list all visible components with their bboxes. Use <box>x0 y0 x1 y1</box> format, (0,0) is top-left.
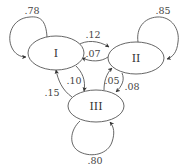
edge-label-II-I: .07 <box>85 48 100 59</box>
node-I-label: I <box>54 47 58 60</box>
node-II: II <box>108 42 164 74</box>
edge-label-III-III: .80 <box>87 155 102 166</box>
edge-label-I-III: .10 <box>66 75 81 86</box>
edge-label-I-II: .12 <box>85 29 100 40</box>
edge-label-II-III: .08 <box>124 81 139 92</box>
edge-label-III-II: .05 <box>104 75 119 86</box>
edge-label-II-II: .85 <box>155 5 170 16</box>
edge-label-III-I: .15 <box>44 87 59 98</box>
node-II-label: II <box>132 52 141 65</box>
node-III: III <box>68 90 124 122</box>
edge-III-to-III <box>72 121 114 155</box>
node-III-label: III <box>89 100 102 113</box>
edge-I-to-II <box>78 41 109 47</box>
state-diagram: I II III .78 .85 .80 .12 .07 .10 .15 .05… <box>0 0 188 167</box>
node-I: I <box>28 36 84 70</box>
edge-label-I-I: .78 <box>24 5 39 16</box>
